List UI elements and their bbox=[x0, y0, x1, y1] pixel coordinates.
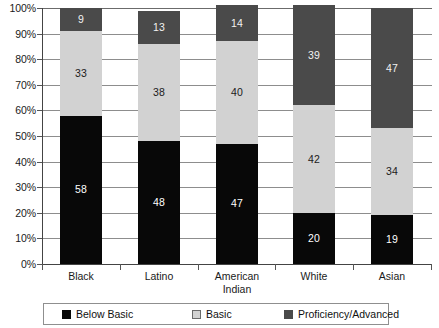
bar-segment[interactable]: 38 bbox=[138, 44, 180, 141]
bar-segment[interactable]: 33 bbox=[60, 31, 102, 115]
y-axis-tick-label: 30% bbox=[0, 182, 36, 192]
bar-group[interactable]: 193447 bbox=[371, 8, 413, 264]
y-axis-tick-label: 90% bbox=[0, 29, 36, 39]
x-axis-category-label: American Indian bbox=[198, 270, 276, 295]
legend-label: Below Basic bbox=[76, 309, 133, 320]
legend-item[interactable]: Basic bbox=[192, 309, 232, 320]
bar-value-label: 33 bbox=[75, 68, 87, 79]
legend-swatch-icon bbox=[192, 310, 201, 319]
x-axis-category-label: White bbox=[275, 270, 353, 283]
legend-item[interactable]: Below Basic bbox=[62, 309, 133, 320]
stacked-bar-chart: 0%10%20%30%40%50%60%70%80%90%100% 583394… bbox=[0, 0, 439, 328]
y-axis-tick-label: 10% bbox=[0, 233, 36, 243]
bar-value-label: 48 bbox=[153, 197, 165, 208]
bar-segment[interactable]: 48 bbox=[138, 141, 180, 264]
bar-value-label: 9 bbox=[78, 14, 84, 25]
bar-group[interactable]: 474014 bbox=[216, 8, 258, 264]
y-axis-tick-label: 40% bbox=[0, 157, 36, 167]
bar-value-label: 40 bbox=[231, 87, 243, 98]
bar-segment[interactable]: 42 bbox=[293, 105, 335, 213]
legend-label: Proficiency/Advanced bbox=[298, 309, 399, 320]
bar-value-label: 13 bbox=[153, 22, 165, 33]
bar-group[interactable]: 58339 bbox=[60, 8, 102, 264]
x-axis-category-label: Black bbox=[42, 270, 120, 283]
bar-segment[interactable]: 9 bbox=[60, 8, 102, 31]
bar-segment[interactable]: 47 bbox=[371, 8, 413, 128]
bar-value-label: 47 bbox=[386, 63, 398, 74]
bar-segment[interactable]: 34 bbox=[371, 128, 413, 215]
y-axis-tick-label: 70% bbox=[0, 80, 36, 90]
x-axis-category-labels: BlackLatinoAmerican IndianWhiteAsian bbox=[42, 270, 431, 304]
legend-label: Basic bbox=[206, 309, 232, 320]
bar-group[interactable]: 204239 bbox=[293, 8, 335, 264]
y-axis-tick-label: 20% bbox=[0, 208, 36, 218]
bar-value-label: 19 bbox=[386, 234, 398, 245]
legend-item[interactable]: Proficiency/Advanced bbox=[284, 309, 399, 320]
bar-value-label: 42 bbox=[308, 154, 320, 165]
bar-stack: 58339 bbox=[60, 8, 102, 264]
bar-segment[interactable]: 58 bbox=[60, 116, 102, 264]
x-axis-category-label: Asian bbox=[353, 270, 431, 283]
bar-group[interactable]: 483813 bbox=[138, 8, 180, 264]
bar-value-label: 34 bbox=[386, 166, 398, 177]
bar-stack: 193447 bbox=[371, 8, 413, 264]
bar-stack: 483813 bbox=[138, 8, 180, 264]
bar-segment[interactable]: 14 bbox=[216, 5, 258, 41]
legend-swatch-icon bbox=[284, 310, 293, 319]
bar-value-label: 58 bbox=[75, 184, 87, 195]
bar-value-label: 39 bbox=[308, 50, 320, 61]
bar-value-label: 14 bbox=[231, 18, 243, 29]
x-axis-category-label: Latino bbox=[120, 270, 198, 283]
bar-segment[interactable]: 13 bbox=[138, 11, 180, 44]
bar-stack: 474014 bbox=[216, 8, 258, 264]
y-axis-tick-label: 50% bbox=[0, 131, 36, 141]
bar-segment[interactable]: 40 bbox=[216, 41, 258, 143]
bar-segment[interactable]: 20 bbox=[293, 213, 335, 264]
bar-segment[interactable]: 19 bbox=[371, 215, 413, 264]
bar-segment[interactable]: 39 bbox=[293, 5, 335, 105]
y-axis-tick-label: 60% bbox=[0, 105, 36, 115]
y-axis-tick-label: 80% bbox=[0, 54, 36, 64]
bar-stack: 204239 bbox=[293, 8, 335, 264]
bar-segment[interactable]: 47 bbox=[216, 144, 258, 264]
bar-value-label: 38 bbox=[153, 87, 165, 98]
bar-series-container: 58339483813474014204239193447 bbox=[42, 8, 431, 264]
y-axis-tick-label: 0% bbox=[0, 259, 36, 269]
bar-value-label: 20 bbox=[308, 233, 320, 244]
y-axis-tick-labels: 0%10%20%30%40%50%60%70%80%90%100% bbox=[0, 0, 36, 272]
bar-value-label: 47 bbox=[231, 198, 243, 209]
chart-legend: Below BasicBasicProficiency/Advanced bbox=[43, 303, 389, 325]
plot-wrapper: 0%10%20%30%40%50%60%70%80%90%100% 583394… bbox=[0, 0, 439, 272]
legend-swatch-icon bbox=[62, 310, 71, 319]
y-axis-tick-label: 100% bbox=[0, 3, 36, 13]
x-axis-tick-mark bbox=[431, 264, 432, 270]
